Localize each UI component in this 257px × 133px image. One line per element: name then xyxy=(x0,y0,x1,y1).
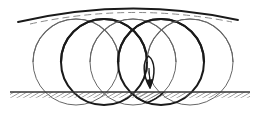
figure-container xyxy=(0,0,257,133)
ground-hatch-band xyxy=(10,92,250,97)
ground-line-group xyxy=(10,92,250,98)
diagram-canvas xyxy=(0,0,257,133)
